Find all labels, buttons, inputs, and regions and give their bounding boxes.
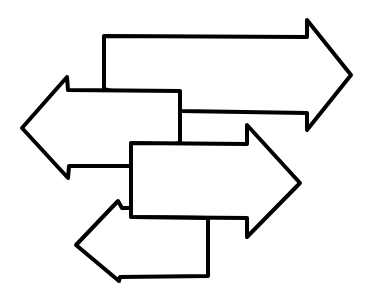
arrows-diagram (0, 0, 369, 301)
